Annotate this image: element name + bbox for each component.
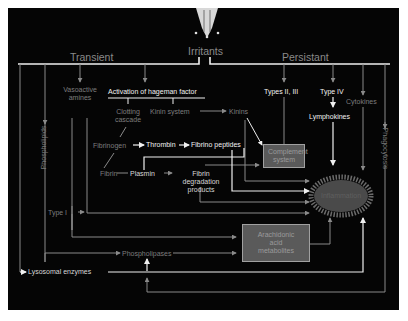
- fibrino-peptides-node: Fibrino peptides: [191, 141, 241, 149]
- pipette-drop-icon: [195, 8, 220, 38]
- hageman-factor-node: Activation of hageman factor: [108, 88, 197, 96]
- fibrin-degradation-products-node: Fibrin degradation products: [173, 170, 229, 194]
- phospholipids-node: Phospholipids: [40, 123, 47, 173]
- cytokines-node: Cytokines: [346, 98, 377, 106]
- phospholipases-node: Phospholipases: [122, 250, 171, 258]
- thrombin-node: Thrombin: [146, 141, 176, 149]
- plasmin-node: Plasmin: [130, 170, 155, 178]
- transient-label: Transient: [70, 52, 113, 63]
- irritants-label: Irritants: [188, 46, 223, 57]
- kinin-system-node: Kinin system: [150, 108, 190, 116]
- type-4-node: Type IV: [320, 88, 344, 96]
- complement-system-label: Complement system: [268, 148, 300, 164]
- phagocytosis-node: Phagocytosis: [382, 124, 389, 174]
- persistant-label: Persistant: [282, 52, 329, 63]
- vasoactive-amines-node: Vasoactive amines: [62, 86, 98, 102]
- lymphokines-node: Lymphokines: [309, 113, 350, 121]
- type-1-node: Type I: [48, 209, 67, 217]
- inflammation-node: Inflammation: [316, 192, 366, 200]
- lysosomal-enzymes-node: Lysosomal enzymes: [28, 268, 91, 276]
- fibrin-node: Fibrin: [100, 170, 118, 178]
- arachidonic-acid-metabolites-box: Arachidonic acid metabolites: [242, 224, 310, 262]
- clotting-cascade-node: Clotting cascade: [114, 108, 142, 124]
- fibrinogen-node: Fibrinogen: [93, 142, 126, 150]
- arachidonic-acid-metabolites-label: Arachidonic acid metabolites: [254, 231, 298, 255]
- kinins-node: Kinins: [229, 108, 248, 116]
- complement-system-box: Complement system: [263, 144, 305, 168]
- types-2-3-node: Types II, III: [264, 88, 298, 96]
